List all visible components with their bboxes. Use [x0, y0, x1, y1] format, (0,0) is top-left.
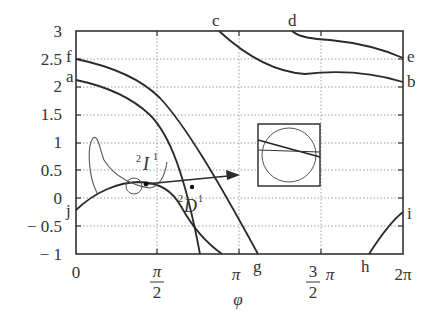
svg-text:1.5: 1.5 [41, 105, 62, 124]
point-2I1 [144, 182, 149, 187]
svg-text:0: 0 [54, 189, 63, 208]
curve-h-i [369, 212, 403, 254]
svg-text:j: j [65, 201, 71, 220]
svg-text:1: 1 [198, 193, 203, 204]
svg-text:2π: 2π [394, 265, 412, 284]
svg-text:2: 2 [136, 153, 141, 164]
curve-d-e [292, 31, 403, 58]
svg-text:d: d [288, 11, 297, 30]
x-axis-label: φ [233, 290, 242, 309]
inset [258, 124, 320, 186]
svg-text:b: b [407, 72, 416, 91]
svg-text:c: c [212, 11, 220, 30]
svg-text:− 0.5: − 0.5 [27, 217, 62, 236]
annotation-2I1: 2 I 1 [136, 151, 158, 174]
svg-text:2: 2 [309, 283, 318, 302]
svg-text:2.5: 2.5 [41, 50, 62, 69]
svg-text:h: h [361, 257, 370, 276]
svg-text:3: 3 [309, 262, 318, 281]
svg-text:π: π [326, 265, 335, 284]
svg-text:i: i [407, 204, 412, 223]
svg-text:2: 2 [153, 283, 162, 302]
curve-a [76, 80, 200, 254]
svg-text:0.5: 0.5 [41, 161, 62, 180]
svg-text:D: D [183, 196, 197, 216]
svg-text:π: π [153, 262, 162, 281]
svg-text:− 1: − 1 [40, 245, 62, 264]
annotation-2D1: 2 D 1 [178, 193, 203, 216]
svg-text:0: 0 [72, 263, 81, 282]
svg-text:a: a [66, 67, 74, 86]
energy-level-chart: 3 2.5 2 1.5 1 0.5 0 − 0.5 − 1 0 π 2 π 3 … [0, 0, 429, 323]
y-tick-labels: 3 2.5 2 1.5 1 0.5 0 − 0.5 − 1 [27, 22, 62, 264]
curve-labels: f a c d e b g h i j [65, 11, 416, 276]
svg-text:f: f [66, 47, 72, 66]
svg-text:2: 2 [54, 77, 63, 96]
arrow-head [226, 170, 240, 180]
svg-text:π: π [232, 265, 241, 284]
svg-text:1: 1 [153, 151, 158, 162]
svg-text:2: 2 [178, 193, 183, 204]
point-2D1 [190, 185, 194, 189]
svg-text:3: 3 [54, 22, 63, 41]
svg-text:I: I [142, 154, 150, 174]
svg-text:g: g [253, 257, 262, 276]
svg-text:e: e [407, 47, 415, 66]
svg-text:1: 1 [54, 133, 63, 152]
